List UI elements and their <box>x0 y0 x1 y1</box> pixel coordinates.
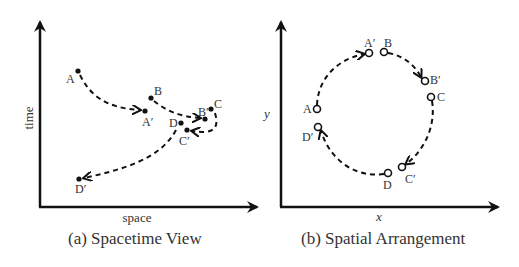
point-B <box>148 95 153 100</box>
label-B-prime: B′ <box>198 105 209 119</box>
label-B: B <box>154 84 162 98</box>
x-axis-label: x <box>375 209 382 224</box>
transition-A-to-A-prime <box>80 75 140 110</box>
label-C-prime: C′ <box>179 134 190 148</box>
point-D <box>178 120 183 125</box>
time-axis-label: time <box>21 106 36 129</box>
label-B-prime: B′ <box>430 73 441 87</box>
point-C <box>428 94 435 101</box>
label-D: D <box>383 178 392 192</box>
point-A-prime <box>142 108 147 113</box>
point-B-prime <box>422 78 429 85</box>
label-D: D <box>169 116 178 130</box>
label-A-prime: A′ <box>142 115 154 129</box>
panel-spacetime-view: time space A A′ B B′ C C′ D D′ <box>21 22 257 225</box>
label-D-prime: D′ <box>75 182 87 196</box>
point-C <box>208 106 213 111</box>
caption-spacetime-view: (a) Spacetime View <box>68 229 202 249</box>
label-C-prime: C′ <box>405 172 416 186</box>
label-D-prime: D′ <box>302 130 314 144</box>
label-C: C <box>437 90 445 104</box>
transition-B-to-B-prime <box>388 53 421 77</box>
point-D-prime <box>76 176 81 181</box>
y-axis-label: y <box>262 106 270 121</box>
label-A: A <box>303 102 312 116</box>
transition-D-to-D-prime <box>321 131 384 175</box>
label-A-prime: A′ <box>364 36 376 50</box>
point-D <box>385 170 392 177</box>
figure-canvas: time space A A′ B B′ C C′ D D′ y x <box>0 0 519 267</box>
space-axis-label: space <box>123 210 152 225</box>
transition-A-to-A-prime <box>317 54 364 105</box>
panel-spatial-arrangement: y x A A′ B B′ C C′ D D′ <box>262 22 498 224</box>
label-A: A <box>66 72 75 86</box>
point-C-prime <box>184 127 189 132</box>
label-C: C <box>214 97 222 111</box>
transition-D-to-D-prime <box>84 130 176 178</box>
caption-spatial-arrangement: (b) Spatial Arrangement <box>301 229 465 249</box>
point-D-prime <box>315 124 322 131</box>
point-A <box>75 68 80 73</box>
point-C-prime <box>399 164 406 171</box>
point-A <box>314 106 321 113</box>
point-A-prime <box>366 50 373 57</box>
transition-C-to-C-prime <box>406 101 433 164</box>
label-B: B <box>384 36 392 50</box>
